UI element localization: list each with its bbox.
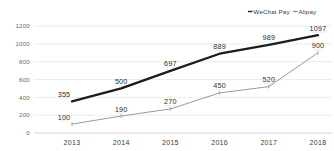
data-label: 355 xyxy=(58,90,71,99)
y-axis-tick-label: 1000 xyxy=(15,40,30,47)
y-axis-tick-label: 0 xyxy=(26,129,30,136)
series-line-wechat-pay xyxy=(72,35,318,101)
data-label: 270 xyxy=(164,97,177,106)
y-axis-tick-label: 200 xyxy=(19,111,30,118)
data-label: 100 xyxy=(58,113,71,122)
chart-legend[interactable]: WeChat PayAlipay xyxy=(248,8,317,15)
data-labels: 3555006978899891097100190270450520900 xyxy=(58,24,327,122)
line-chart: 020040060080010001200 201320142015201620… xyxy=(0,0,334,151)
x-axis-tick-label: 2018 xyxy=(310,139,327,146)
x-axis-tick-label: 2016 xyxy=(211,139,228,146)
y-axis-tick-label: 400 xyxy=(19,94,30,101)
data-label: 450 xyxy=(213,81,226,90)
x-axis-tick-label: 2015 xyxy=(162,139,179,146)
legend-label-wechat-pay[interactable]: WeChat Pay xyxy=(254,8,291,15)
x-axis-tick-label: 2017 xyxy=(260,139,277,146)
y-axis-tick-label: 1200 xyxy=(15,22,30,29)
data-label: 1097 xyxy=(310,24,327,33)
data-label: 889 xyxy=(213,42,226,51)
y-axis-tick-label: 800 xyxy=(19,58,30,65)
x-axis-tick-label: 2013 xyxy=(64,139,81,146)
data-label: 989 xyxy=(263,33,276,42)
data-label: 500 xyxy=(115,77,128,86)
x-axis-tick-labels: 201320142015201620172018 xyxy=(64,139,327,146)
x-axis-tick-label: 2014 xyxy=(113,139,130,146)
y-axis-tick-labels: 020040060080010001200 xyxy=(15,22,30,136)
data-label: 697 xyxy=(164,59,177,68)
legend-label-alipay[interactable]: Alipay xyxy=(299,8,318,15)
chart-canvas: 020040060080010001200 201320142015201620… xyxy=(0,0,334,151)
data-label: 190 xyxy=(115,105,128,114)
y-axis-tick-label: 600 xyxy=(19,76,30,83)
data-label: 520 xyxy=(263,75,276,84)
data-label: 900 xyxy=(312,41,325,50)
